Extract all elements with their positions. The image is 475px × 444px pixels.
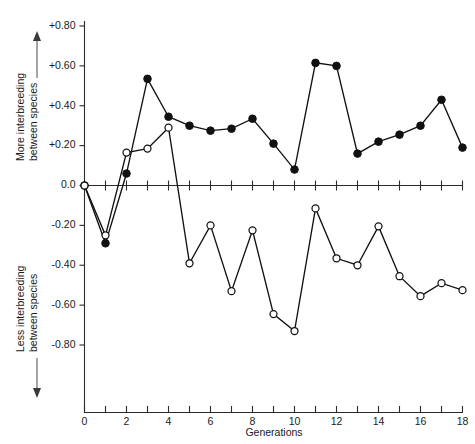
data-point-open [249,227,256,234]
data-point-filled [312,59,320,67]
upper-axis-annotation: More interbreeding between species [14,31,41,161]
data-point-filled [291,166,299,174]
y-tick-label: -0.80 [52,338,76,350]
x-tick-label: 16 [415,415,427,427]
y-tick-label: -0.60 [52,298,76,310]
data-point-filled [228,125,236,133]
y-tick-label: -0.40 [52,258,76,270]
data-point-open [165,124,172,131]
data-point-open [186,260,193,267]
series-open-circles-series [81,124,466,334]
data-point-filled [144,75,152,83]
lower-axis-label-line2: between species [27,274,39,352]
data-point-filled [207,127,215,135]
data-point-open [270,311,277,318]
data-point-open [81,182,88,189]
upper-axis-label-line2: between species [27,83,39,161]
y-tick-label: 0.0 [61,178,76,190]
upper-axis-label-line1: More interbreeding [14,73,26,161]
y-tick-label: +0.80 [49,19,76,31]
data-point-filled [417,122,425,130]
data-point-open [102,232,109,239]
data-point-filled [333,62,341,70]
line-chart: +0.80+0.60+0.40+0.200.0-0.20-0.40-0.60-0… [0,0,475,444]
data-point-filled [165,113,173,121]
figure-container: +0.80+0.60+0.40+0.200.0-0.20-0.40-0.60-0… [0,0,475,444]
x-tick-label: 0 [82,415,88,427]
data-point-open [333,255,340,262]
data-point-filled [459,144,467,152]
data-point-filled [375,138,383,146]
data-point-open [354,262,361,269]
data-point-open [228,288,235,295]
series-path [85,63,463,243]
data-point-open [123,149,130,156]
data-point-filled [270,140,278,148]
x-tick-label: 12 [331,415,343,427]
x-tick-label: 2 [124,415,130,427]
y-tick-label: -0.20 [52,218,76,230]
x-axis-title: Generations [245,426,302,438]
data-point-filled [186,122,194,130]
y-axis-tick-labels: +0.80+0.60+0.40+0.200.0-0.20-0.40-0.60-0… [49,19,76,350]
data-point-filled [249,115,257,123]
series-filled-circles-series [81,59,467,247]
data-point-filled [438,96,446,104]
data-point-open [417,293,424,300]
series-path [85,128,463,331]
y-tick-label: +0.20 [49,138,76,150]
data-point-filled [123,170,131,178]
x-axis: 024681012141618 [82,181,469,428]
y-axis: +0.80+0.60+0.40+0.200.0-0.20-0.40-0.60-0… [49,19,85,413]
data-point-filled [102,240,110,248]
y-tick-label: +0.60 [49,59,76,71]
data-point-open [312,205,319,212]
up-arrow-head [33,31,41,41]
data-point-filled [396,131,404,139]
data-point-open [207,222,214,229]
data-point-open [144,145,151,152]
x-tick-label: 14 [373,415,385,427]
data-series-group [81,59,467,334]
lower-axis-annotation: Less interbreeding between species [14,265,41,398]
data-point-open [396,273,403,280]
x-tick-label: 6 [208,415,214,427]
data-point-open [375,223,382,230]
data-point-open [291,328,298,335]
data-point-open [438,280,445,287]
y-tick-label: +0.40 [49,99,76,111]
x-axis-ticks-bottom [85,406,463,413]
data-point-open [459,287,466,294]
lower-axis-label-line1: Less interbreeding [14,265,26,352]
x-tick-label: 4 [166,415,172,427]
down-arrow-head [33,388,41,398]
x-tick-label: 18 [457,415,469,427]
data-point-filled [354,150,362,158]
